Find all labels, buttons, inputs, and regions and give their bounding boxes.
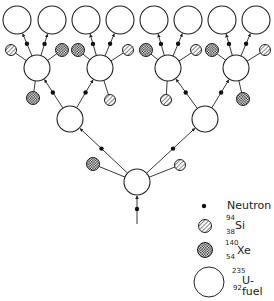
- neutron-dot: [83, 90, 87, 94]
- legend-si-symbol: Si: [235, 220, 245, 231]
- uranium-nucleus: [57, 106, 83, 132]
- uranium-nucleus: [124, 169, 150, 195]
- fragment-link: [104, 80, 108, 94]
- fragment-link: [149, 167, 175, 177]
- legend: [194, 204, 224, 297]
- legend-si-mass: 94: [226, 215, 235, 222]
- xenon-fragment-icon: [27, 92, 40, 105]
- uranium-nucleus: [38, 6, 66, 34]
- neutron-dot: [244, 42, 248, 46]
- neutron-dot: [227, 42, 231, 46]
- uranium-nucleus: [24, 55, 50, 81]
- legend-u-icon: [194, 267, 224, 297]
- uranium-nucleus: [87, 55, 113, 81]
- legend-u-atomic: 92: [233, 285, 242, 292]
- uranium-nucleus: [140, 6, 168, 34]
- fragment-link: [111, 53, 123, 61]
- silicon-fragment-icon: [161, 95, 172, 106]
- fragment-link: [16, 53, 27, 60]
- xenon-fragment-icon: [140, 44, 153, 57]
- neutron-dot: [42, 42, 46, 46]
- xenon-fragment-icon: [72, 44, 85, 57]
- fragment-link: [179, 53, 191, 61]
- uranium-nucleus: [208, 6, 236, 34]
- uranium-nucleus: [223, 55, 249, 81]
- legend-xe-atomic: 54: [226, 254, 235, 261]
- neutron-dot: [184, 90, 188, 94]
- uranium-nucleus: [72, 6, 100, 34]
- neutron-dot: [91, 42, 95, 46]
- xenon-fragment-icon: [56, 44, 69, 57]
- neutron-dot: [108, 42, 112, 46]
- neutron-dot: [159, 42, 163, 46]
- neutron-dot: [176, 42, 180, 46]
- silicon-fragment-icon: [175, 160, 186, 171]
- silicon-fragment-icon: [260, 45, 271, 56]
- silicon-fragment-icon: [191, 45, 202, 56]
- neutron-path: [147, 129, 195, 174]
- legend-si-atomic: 38: [226, 229, 235, 236]
- legend-xe-icon: [198, 243, 213, 258]
- uranium-nucleus: [242, 6, 270, 34]
- fragment-link: [83, 54, 90, 60]
- neutron-dot: [51, 90, 55, 94]
- legend-xe-symbol: Xe: [237, 245, 251, 256]
- uranium-nucleus: [192, 106, 218, 132]
- incoming-neutron-dot: [135, 207, 139, 211]
- fragment-link: [34, 81, 35, 92]
- uranium-nucleus: [3, 6, 31, 34]
- fragment-link: [166, 81, 167, 95]
- fragment-link: [247, 53, 260, 61]
- neutron-dot: [219, 90, 223, 94]
- neutron-dot: [25, 42, 29, 46]
- fragment-link: [239, 81, 242, 93]
- silicon-fragment-icon: [123, 45, 134, 56]
- legend-u-symbol: U-fuel: [242, 275, 274, 297]
- uranium-nucleus: [106, 6, 134, 34]
- silicon-fragment-icon: [105, 95, 116, 106]
- uranium-nucleus: [155, 55, 181, 81]
- xenon-fragment-icon: [206, 44, 219, 57]
- fragment-link: [48, 54, 57, 61]
- legend-si-icon: [199, 220, 212, 233]
- uranium-nodes: [3, 6, 270, 195]
- fragment-link: [151, 54, 158, 60]
- xenon-fragment-icon: [237, 93, 250, 106]
- fragment-link: [217, 54, 225, 60]
- neutron-dot: [99, 146, 103, 150]
- fragment-link: [99, 166, 125, 177]
- silicon-fragment-icon: [6, 45, 17, 56]
- legend-neutron-icon: [202, 204, 206, 208]
- neutron-dot: [171, 146, 175, 150]
- xenon-fragment-icon: [87, 158, 100, 171]
- uranium-nucleus: [174, 6, 202, 34]
- legend-neutron-label: Neutron: [227, 200, 271, 211]
